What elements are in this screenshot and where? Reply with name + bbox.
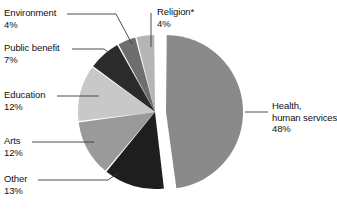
label-religion: Religion* 4% xyxy=(157,6,194,29)
label-public-benefit-value: 7% xyxy=(4,54,60,66)
label-education-name: Education xyxy=(4,89,45,101)
label-public-benefit-name: Public benefit xyxy=(4,42,60,54)
slice-health-human-services[interactable] xyxy=(166,35,243,188)
leader-line-other xyxy=(38,173,118,180)
label-environment: Environment 4% xyxy=(4,7,56,30)
label-arts-name: Arts xyxy=(4,135,23,147)
label-public-benefit: Public benefit 7% xyxy=(4,42,60,65)
label-education-value: 12% xyxy=(4,101,45,113)
label-other-name: Other xyxy=(4,173,27,185)
label-environment-name: Environment xyxy=(4,7,56,19)
label-health-value: 48% xyxy=(272,123,337,135)
label-religion-value: 4% xyxy=(157,18,194,30)
label-health-human-services: Health, human services 48% xyxy=(272,100,337,135)
label-other: Other 13% xyxy=(4,173,27,196)
label-arts: Arts 12% xyxy=(4,135,23,158)
label-arts-value: 12% xyxy=(4,147,23,159)
leader-line-environment xyxy=(67,14,132,44)
label-health-name-line2: human services xyxy=(272,112,337,124)
label-education: Education 12% xyxy=(4,89,45,112)
label-other-value: 13% xyxy=(4,185,27,197)
pie-slices xyxy=(78,35,243,189)
label-religion-name: Religion* xyxy=(157,6,194,18)
label-health-name-line1: Health, xyxy=(272,100,337,112)
label-environment-value: 4% xyxy=(4,19,56,31)
